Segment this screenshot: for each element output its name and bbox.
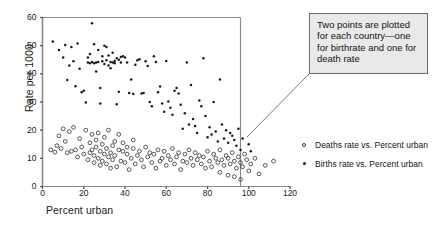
data-point-birth-rate — [153, 55, 156, 58]
data-point-birth-rate — [116, 103, 119, 106]
scatter-plot-figure: Rate per 1000 Percent urban 010203040506… — [0, 0, 441, 231]
data-point-death-rate — [226, 173, 230, 177]
data-point-death-rate — [109, 151, 113, 155]
data-point-death-rate — [166, 154, 170, 158]
data-point-death-rate — [177, 151, 181, 155]
data-point-birth-rate — [72, 60, 75, 63]
data-point-birth-rate — [66, 79, 69, 82]
data-point-death-rate — [121, 149, 125, 153]
data-point-birth-rate — [146, 65, 149, 68]
data-point-death-rate — [253, 156, 257, 160]
callout-box: Two points are plotted for each country—… — [309, 13, 428, 74]
data-point-death-rate — [133, 162, 137, 166]
data-point-birth-rate — [225, 129, 228, 132]
data-point-death-rate — [173, 162, 177, 166]
data-point-death-rate — [154, 166, 158, 170]
data-point-death-rate — [212, 152, 216, 156]
data-point-birth-rate — [159, 85, 162, 88]
data-point-death-rate — [96, 131, 100, 135]
legend: Deaths rate vs. Percent urban Births rat… — [300, 140, 430, 178]
data-point-death-rate — [117, 132, 121, 136]
data-point-death-rate — [168, 158, 172, 162]
data-point-death-rate — [80, 145, 84, 149]
data-point-death-rate — [140, 158, 144, 162]
data-point-death-rate — [222, 163, 226, 167]
data-point-death-rate — [98, 149, 102, 153]
data-point-birth-rate — [190, 84, 193, 87]
data-point-birth-rate — [99, 102, 102, 105]
data-point-birth-rate — [212, 101, 215, 104]
data-point-death-rate — [171, 147, 175, 151]
data-point-death-rate — [232, 159, 236, 163]
data-point-birth-rate — [116, 57, 119, 60]
data-point-birth-rate — [177, 92, 180, 95]
data-point-death-rate — [232, 175, 236, 179]
data-point-birth-rate — [78, 68, 81, 71]
data-point-birth-rate — [163, 111, 166, 114]
data-point-birth-rate — [235, 144, 238, 147]
data-point-birth-rate — [202, 57, 205, 60]
data-point-death-rate — [185, 161, 189, 165]
data-point-death-rate — [138, 149, 142, 153]
data-point-death-rate — [92, 161, 96, 165]
data-point-death-rate — [100, 159, 104, 163]
legend-item-deaths-label: Deaths rate vs. Percent urban — [315, 140, 428, 150]
data-point-death-rate — [187, 148, 191, 152]
data-point-death-rate — [197, 154, 201, 158]
data-point-birth-rate — [111, 51, 114, 54]
data-point-death-rate — [113, 154, 117, 158]
data-point-birth-rate — [134, 64, 137, 67]
data-point-death-rate — [102, 152, 106, 156]
series-deaths-points — [49, 125, 276, 181]
data-point-death-rate — [230, 151, 234, 155]
data-point-death-rate — [199, 162, 203, 166]
data-point-birth-rate — [173, 89, 176, 92]
data-point-death-rate — [131, 147, 135, 151]
data-point-birth-rate — [52, 40, 55, 43]
data-point-death-rate — [234, 166, 238, 170]
data-point-death-rate — [100, 142, 104, 146]
data-point-death-rate — [181, 159, 185, 163]
data-point-birth-rate — [204, 115, 207, 118]
y-tick-label: 20 — [15, 126, 37, 135]
data-point-death-rate — [142, 165, 146, 169]
data-point-birth-rate — [248, 143, 251, 146]
y-tick-label: 60 — [15, 13, 37, 22]
legend-item-deaths: Deaths rate vs. Percent urban — [300, 140, 430, 150]
data-point-birth-rate — [118, 91, 121, 94]
data-point-birth-rate — [149, 101, 152, 104]
x-tick-label: 20 — [71, 189, 97, 198]
x-tick-label: 80 — [195, 189, 221, 198]
data-point-birth-rate — [101, 55, 104, 58]
data-point-death-rate — [272, 159, 276, 163]
data-point-birth-rate — [196, 132, 199, 135]
data-point-birth-rate — [80, 91, 83, 94]
data-point-death-rate — [63, 140, 67, 144]
data-point-birth-rate — [233, 139, 236, 142]
data-point-death-rate — [189, 156, 193, 160]
data-point-birth-rate — [101, 60, 104, 63]
data-point-death-rate — [86, 158, 90, 162]
data-point-birth-rate — [186, 61, 189, 64]
data-point-death-rate — [113, 140, 117, 144]
data-point-birth-rate — [144, 60, 147, 63]
data-point-death-rate — [88, 141, 92, 145]
data-point-death-rate — [90, 132, 94, 136]
data-point-birth-rate — [105, 59, 108, 62]
data-point-death-rate — [94, 145, 98, 149]
callout-text: Two points are plotted for each country—… — [317, 19, 423, 65]
data-point-death-rate — [92, 154, 96, 158]
x-tick-label: 40 — [112, 189, 138, 198]
data-point-death-rate — [94, 138, 98, 142]
data-point-birth-rate — [76, 42, 79, 45]
data-point-birth-rate — [241, 137, 244, 140]
data-point-birth-rate — [128, 92, 131, 95]
data-point-birth-rate — [64, 44, 67, 47]
data-point-death-rate — [59, 147, 63, 151]
data-point-death-rate — [82, 152, 86, 156]
data-point-death-rate — [247, 169, 251, 173]
data-point-death-rate — [218, 148, 222, 152]
data-point-birth-rate — [109, 67, 112, 70]
data-point-death-rate — [127, 168, 131, 172]
data-point-birth-rate — [208, 126, 211, 129]
